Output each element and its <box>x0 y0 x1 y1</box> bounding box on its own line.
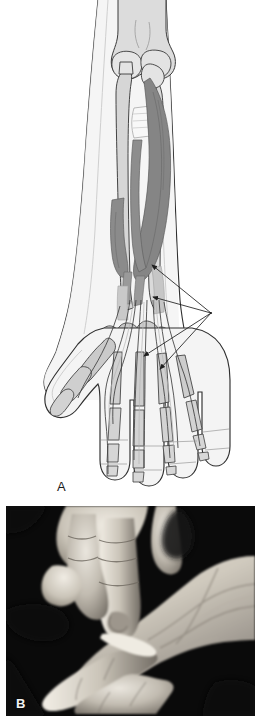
photo-grain <box>6 506 255 716</box>
panel-a-illustration: A <box>0 0 261 500</box>
panel-b-label: B <box>16 696 26 711</box>
panel-a-label: A <box>57 479 66 494</box>
panel-b-photograph <box>6 506 255 716</box>
figure-container: A <box>0 0 261 726</box>
forearm-hand-diagram <box>0 0 261 500</box>
caption-strip <box>0 718 261 726</box>
hand-examination-photo <box>6 506 255 716</box>
